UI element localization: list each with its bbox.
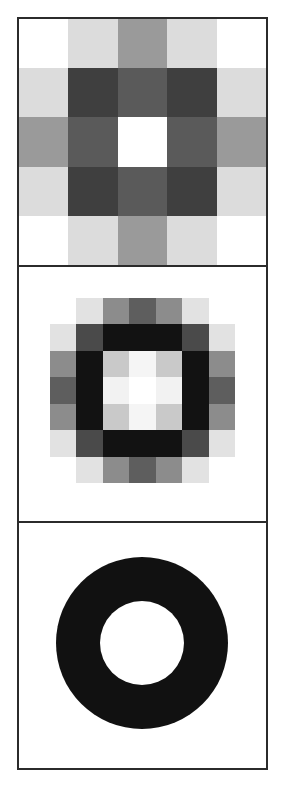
- checker-cell-r4-c2: [118, 216, 167, 265]
- concentric-cell-r5-c6: [209, 430, 235, 456]
- concentric-cell-r3-c0: [50, 377, 76, 403]
- concentric-cell-r4-c1: [76, 404, 102, 430]
- panel-annulus-ring: [19, 521, 266, 768]
- checker-cell-r2-c2: [118, 117, 167, 166]
- concentric-grid-7x7: [50, 298, 235, 483]
- concentric-cell-r1-c2: [103, 324, 129, 350]
- checker-cell-r1-c2: [118, 68, 167, 117]
- concentric-cell-r4-c2: [103, 404, 129, 430]
- concentric-cell-r5-c3: [129, 430, 155, 456]
- checker-cell-r4-c3: [167, 216, 216, 265]
- figure-canvas: [0, 0, 285, 788]
- checker-cell-r0-c2: [118, 19, 167, 68]
- concentric-cell-r1-c5: [182, 324, 208, 350]
- checker-cell-r3-c3: [167, 167, 216, 216]
- checker-cell-r0-c3: [167, 19, 216, 68]
- panel-checkerboard-5x5: [19, 19, 266, 265]
- panel-stack: [17, 17, 268, 770]
- concentric-cell-r3-c3: [129, 377, 155, 403]
- checker-cell-r2-c4: [217, 117, 266, 166]
- checker-cell-r0-c0: [19, 19, 68, 68]
- checker-cell-r1-c3: [167, 68, 216, 117]
- concentric-cell-r2-c6: [209, 351, 235, 377]
- concentric-cell-r4-c0: [50, 404, 76, 430]
- concentric-cell-r0-c2: [103, 298, 129, 324]
- concentric-cell-r4-c6: [209, 404, 235, 430]
- concentric-cell-r2-c4: [156, 351, 182, 377]
- concentric-cell-r3-c6: [209, 377, 235, 403]
- concentric-cell-r1-c3: [129, 324, 155, 350]
- concentric-cell-r1-c4: [156, 324, 182, 350]
- concentric-cell-r4-c4: [156, 404, 182, 430]
- checker-cell-r1-c4: [217, 68, 266, 117]
- checker-cell-r1-c0: [19, 68, 68, 117]
- concentric-cell-r6-c6: [209, 457, 235, 483]
- checker-cell-r2-c3: [167, 117, 216, 166]
- checker-cell-r3-c2: [118, 167, 167, 216]
- concentric-cell-r3-c2: [103, 377, 129, 403]
- concentric-cell-r2-c2: [103, 351, 129, 377]
- concentric-cell-r5-c2: [103, 430, 129, 456]
- checker-cell-r2-c1: [68, 117, 117, 166]
- checker-cell-r4-c0: [19, 216, 68, 265]
- concentric-cell-r3-c1: [76, 377, 102, 403]
- concentric-cell-r0-c4: [156, 298, 182, 324]
- concentric-cell-r1-c6: [209, 324, 235, 350]
- concentric-cell-r6-c0: [50, 457, 76, 483]
- concentric-cell-r6-c5: [182, 457, 208, 483]
- annulus-inner-hole: [100, 601, 184, 685]
- concentric-cell-r5-c5: [182, 430, 208, 456]
- panel-concentric-square-7x7: [19, 265, 266, 521]
- concentric-cell-r0-c0: [50, 298, 76, 324]
- checker-cell-r3-c1: [68, 167, 117, 216]
- concentric-cell-r3-c4: [156, 377, 182, 403]
- checker-cell-r3-c0: [19, 167, 68, 216]
- concentric-cell-r4-c5: [182, 404, 208, 430]
- concentric-cell-r6-c1: [76, 457, 102, 483]
- concentric-cell-r1-c1: [76, 324, 102, 350]
- concentric-cell-r0-c6: [209, 298, 235, 324]
- checker-cell-r4-c1: [68, 216, 117, 265]
- checker-cell-r4-c4: [217, 216, 266, 265]
- concentric-cell-r0-c3: [129, 298, 155, 324]
- concentric-cell-r1-c0: [50, 324, 76, 350]
- checker-cell-r1-c1: [68, 68, 117, 117]
- concentric-cell-r3-c5: [182, 377, 208, 403]
- checker-cell-r2-c0: [19, 117, 68, 166]
- concentric-cell-r6-c2: [103, 457, 129, 483]
- concentric-cell-r2-c0: [50, 351, 76, 377]
- concentric-cell-r0-c5: [182, 298, 208, 324]
- concentric-cell-r6-c3: [129, 457, 155, 483]
- concentric-cell-r5-c1: [76, 430, 102, 456]
- checker-cell-r0-c1: [68, 19, 117, 68]
- checker-cell-r0-c4: [217, 19, 266, 68]
- concentric-cell-r2-c3: [129, 351, 155, 377]
- concentric-cell-r2-c1: [76, 351, 102, 377]
- concentric-cell-r4-c3: [129, 404, 155, 430]
- concentric-cell-r5-c4: [156, 430, 182, 456]
- concentric-cell-r0-c1: [76, 298, 102, 324]
- checker-cell-r3-c4: [217, 167, 266, 216]
- checker-grid-5x5: [19, 19, 266, 265]
- concentric-cell-r2-c5: [182, 351, 208, 377]
- concentric-cell-r6-c4: [156, 457, 182, 483]
- concentric-cell-r5-c0: [50, 430, 76, 456]
